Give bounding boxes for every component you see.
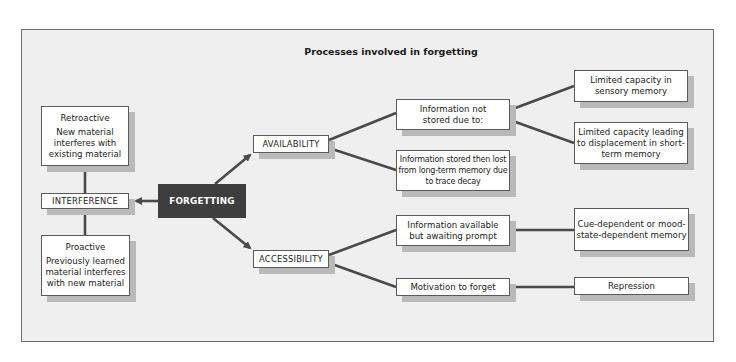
interference-node: INTERFERENCE: [41, 193, 129, 209]
repression-node: Repression: [574, 277, 689, 295]
interference-label: INTERFERENCE: [52, 196, 118, 207]
proactive-box: Proactive Previously learned material in…: [41, 235, 130, 296]
info-not-stored-label: Information not stored due to:: [413, 104, 493, 126]
awaiting-prompt-node: Information available but awaiting promp…: [396, 215, 510, 246]
accessibility-label: ACCESSIBILITY: [259, 254, 323, 265]
connector-lines: [0, 0, 736, 362]
info-not-stored-node: Information not stored due to:: [396, 99, 510, 130]
info-stored-lost-node: Information stored then lost from long-t…: [396, 150, 510, 191]
availability-label: AVAILABILITY: [262, 139, 319, 150]
sensory-memory-node: Limited capacity in sensory memory: [574, 70, 688, 102]
forgetting-root-node: FORGETTING: [158, 184, 246, 218]
short-term-displacement-label: Limited capacity leading to displacement…: [576, 127, 686, 160]
cue-dependent-node: Cue-dependent or mood-state-dependent me…: [574, 208, 689, 251]
motivation-label: Motivation to forget: [410, 282, 495, 293]
proactive-heading: Proactive: [66, 242, 106, 253]
proactive-text: Previously learned material interferes w…: [44, 256, 128, 289]
accessibility-node: ACCESSIBILITY: [253, 250, 329, 268]
retroactive-heading: Retroactive: [61, 113, 110, 124]
short-term-displacement-node: Limited capacity leading to displacement…: [574, 122, 688, 164]
info-stored-lost-label: Information stored then lost from long-t…: [397, 154, 509, 187]
forgetting-label: FORGETTING: [169, 196, 235, 207]
awaiting-prompt-label: Information available but awaiting promp…: [401, 220, 506, 242]
motivation-node: Motivation to forget: [396, 278, 510, 296]
retroactive-box: Retroactive New material interferes with…: [41, 106, 129, 166]
repression-label: Repression: [608, 281, 655, 292]
cue-dependent-label: Cue-dependent or mood-state-dependent me…: [577, 219, 687, 241]
availability-node: AVAILABILITY: [253, 135, 329, 153]
retroactive-text: New material interferes with existing ma…: [45, 127, 125, 160]
sensory-memory-label: Limited capacity in sensory memory: [584, 75, 679, 97]
